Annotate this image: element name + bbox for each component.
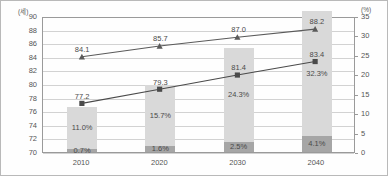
bar-segment-label: 15.7%: [150, 112, 171, 120]
plot-area: 11.0%0.7%15.7%1.6%24.3%2.5%32.3%4.1% 84.…: [42, 17, 355, 153]
bar-segment-lower: 0.7%: [67, 149, 97, 152]
line-marker-square: [79, 101, 84, 106]
bar-segment-upper: 11.0%: [67, 107, 97, 150]
line-point-label: 88.2: [310, 18, 325, 26]
right-axis-tickmark: [355, 134, 358, 135]
left-axis-tick: 82: [29, 68, 37, 76]
right-axis-tick: 0: [361, 149, 365, 157]
bar-segment-lower: 1.6%: [145, 146, 175, 152]
x-axis-tick-labels: 2010202020302040: [42, 157, 355, 171]
right-axis-tick: 35: [361, 13, 369, 21]
right-axis-tick: 30: [361, 33, 369, 41]
left-axis-tick: 88: [29, 27, 37, 35]
left-axis-tick: 72: [29, 136, 37, 144]
right-axis-tick: 5: [361, 130, 365, 138]
right-axis-tick-labels: 35302520151050: [361, 17, 383, 153]
line-point-label: 77.2: [75, 93, 90, 101]
bar-segment-upper: 32.3%: [302, 11, 332, 137]
left-axis-tick: 70: [29, 149, 37, 157]
bar-segment-label: 0.7%: [74, 147, 91, 155]
x-axis-tick: 2040: [277, 157, 355, 171]
bar-segment-label: 1.6%: [152, 145, 169, 153]
bar-segment-upper: 15.7%: [145, 85, 175, 146]
right-axis-tickmark: [355, 17, 358, 18]
right-axis-tickmark: [355, 95, 358, 96]
left-axis-tick: 86: [29, 40, 37, 48]
line-point-label: 79.3: [153, 78, 168, 86]
right-axis-tickmark: [355, 153, 358, 154]
bar-segment-label: 24.3%: [228, 91, 249, 99]
right-axis-tick: 25: [361, 52, 369, 60]
line-marker-triangle: [234, 34, 240, 40]
left-axis-tick: 80: [29, 81, 37, 89]
bar-segment-label: 11.0%: [72, 124, 93, 132]
bar-segment-lower: 2.5%: [224, 142, 254, 152]
line-point-label: 85.7: [153, 35, 168, 43]
right-axis-tickmark: [355, 75, 358, 76]
left-axis-tick: 78: [29, 95, 37, 103]
bar-column: 15.7%1.6%: [145, 85, 175, 152]
left-axis-tick: 90: [29, 13, 37, 21]
left-axis-tick: 74: [29, 122, 37, 130]
line-point-label: 87.0: [231, 26, 246, 34]
left-axis-tick: 84: [29, 54, 37, 62]
bar-segment-lower: 4.1%: [302, 136, 332, 152]
right-axis-tick: 20: [361, 72, 369, 80]
right-axis-tick: 10: [361, 110, 369, 118]
right-axis-tickmark: [355, 114, 358, 115]
bar-column: 32.3%4.1%: [302, 11, 332, 152]
right-axis-tick: 15: [361, 91, 369, 99]
right-axis-tickmark: [355, 56, 358, 57]
line-point-label: 84.1: [75, 46, 90, 54]
x-axis-tick: 2010: [42, 157, 120, 171]
chart-frame: (세) (%) 9088868482807876747270 353025201…: [0, 0, 388, 176]
x-axis-tick: 2020: [120, 157, 198, 171]
x-axis-tick: 2030: [199, 157, 277, 171]
line-point-label: 81.4: [231, 64, 246, 72]
line-path: [82, 29, 315, 57]
bar-segment-label: 2.5%: [230, 143, 247, 151]
left-axis-unit-label: (세): [18, 6, 28, 16]
bar-segment-label: 32.3%: [306, 70, 327, 78]
line-path: [82, 62, 315, 104]
bar-column: 11.0%0.7%: [67, 107, 97, 152]
line-point-label: 83.4: [310, 50, 325, 58]
left-axis-tick-labels: 9088868482807876747270: [15, 17, 37, 153]
right-axis-tickmark: [355, 36, 358, 37]
left-axis-tick: 76: [29, 108, 37, 116]
bar-segment-label: 4.1%: [308, 140, 325, 148]
